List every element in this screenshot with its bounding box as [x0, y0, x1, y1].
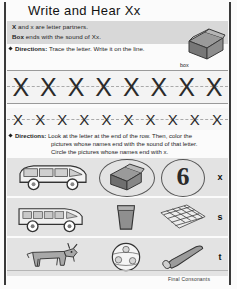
circle-mark-six	[161, 159, 205, 197]
trace-letter: X	[95, 75, 112, 100]
trace-letter: X	[57, 112, 67, 127]
picture-cell-glass[interactable]	[97, 198, 155, 236]
trace-row-2[interactable]: XXXXXXXXXX	[7, 108, 228, 130]
info-line-1-rest: and x are letter partners.	[16, 23, 88, 30]
trace-letters-2: XXXXXXXXXX	[7, 108, 228, 130]
trace-letter: X	[124, 112, 134, 127]
box-label: box	[180, 62, 189, 68]
directions-2-label: Directions:	[15, 133, 46, 139]
trace-letters-1: XXXXXXXX	[7, 71, 228, 103]
trace-letter: X	[190, 112, 200, 127]
page-title: Write and Hear Xx	[28, 3, 141, 18]
directions-1-label: Directions:	[15, 45, 47, 52]
trace-letter: X	[35, 112, 45, 127]
info-line-2-rest: ends with the sound of Xx.	[24, 33, 101, 40]
worksheet-page: Write and Hear Xx X and x are letter par…	[0, 0, 237, 289]
footer-divider	[7, 270, 228, 271]
directions-1: Directions: Trace the letter. Write it o…	[9, 45, 145, 52]
trace-row-1[interactable]: XXXXXXXX	[7, 70, 228, 104]
directions-2-line-1: Look at the letter at the end of the row…	[46, 133, 192, 139]
trace-letter: X	[13, 112, 23, 127]
picture-cell-bus[interactable]	[11, 198, 95, 236]
info-line-2-bold: Box	[12, 33, 24, 40]
row-end-letter-x: x	[211, 158, 229, 196]
trace-letter: X	[212, 112, 222, 127]
trace-letter: X	[146, 112, 156, 127]
picture-cell-six[interactable]: 6	[157, 158, 209, 196]
trace-letter: X	[168, 112, 178, 127]
box-icon	[183, 27, 227, 61]
trace-letter: X	[40, 75, 57, 100]
info-line-2: Box ends with the sound of Xx.	[12, 33, 101, 40]
picture-cell-box[interactable]	[97, 158, 155, 196]
trace-letter: X	[12, 75, 29, 100]
footer-label: Final Consonants	[168, 276, 210, 282]
trace-letter: X	[101, 112, 111, 127]
diamond-bullet-icon-2	[8, 133, 12, 137]
picture-cell-net[interactable]	[157, 198, 209, 236]
info-line-1: X and x are letter partners.	[12, 23, 88, 30]
directions-1-text: Trace the letter. Write it on the line.	[47, 45, 144, 52]
directions-2: Directions: Look at the letter at the en…	[9, 132, 227, 157]
trace-letter: X	[178, 75, 195, 100]
trace-letter: X	[68, 75, 85, 100]
trace-letter: X	[206, 75, 223, 100]
circle-mark-box	[99, 159, 155, 197]
trace-letter: X	[79, 112, 89, 127]
directions-2-line-3: Circle the pictures whose names end with…	[51, 148, 227, 156]
picture-cell-van[interactable]	[11, 158, 95, 196]
trace-letter: X	[123, 75, 140, 100]
picture-row-1: 6 x	[7, 158, 228, 196]
picture-row-2: s	[7, 198, 228, 236]
directions-2-line-2: pictures whose names end with the sound …	[51, 140, 227, 148]
row-end-letter-s: s	[211, 198, 229, 236]
diamond-bullet-icon	[8, 46, 12, 50]
trace-letter: X	[151, 75, 168, 100]
